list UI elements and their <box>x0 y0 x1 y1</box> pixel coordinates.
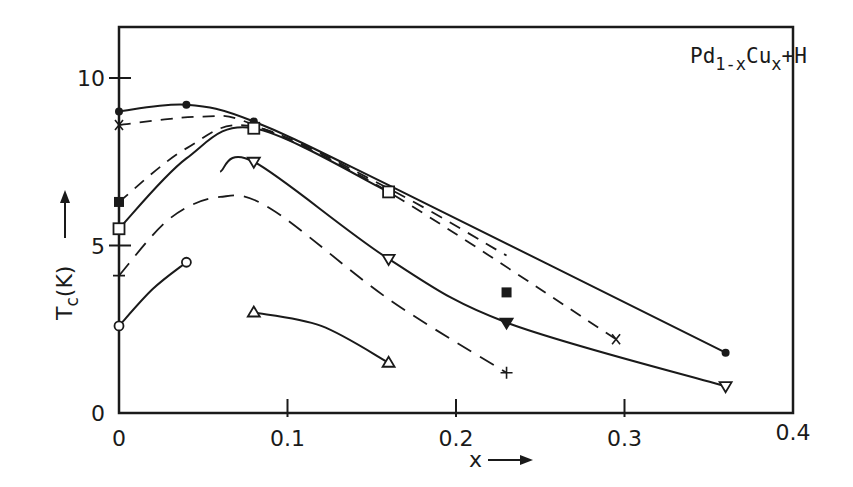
curve-plus <box>119 195 507 372</box>
open-square-marker <box>114 223 125 234</box>
plus-marker <box>501 367 513 379</box>
curve-filled-square <box>119 125 507 256</box>
data-markers <box>113 101 732 392</box>
filled-circle-marker <box>722 349 730 357</box>
open-square-marker <box>248 123 259 134</box>
filled-square-marker <box>114 197 124 207</box>
x-axis-title: x <box>469 447 533 472</box>
open-square-marker <box>383 186 394 197</box>
y-tick-label: 0 <box>91 401 105 426</box>
x-tick-label: 0.4 <box>776 420 811 445</box>
open-inverted-triangle-marker <box>383 255 395 265</box>
open-inverted-triangle-marker <box>720 382 732 392</box>
x-axis-label: x <box>469 447 482 472</box>
open-circle-marker <box>182 258 191 267</box>
x-tick-label: 0.1 <box>270 426 305 451</box>
open-triangle-marker <box>383 357 395 367</box>
y-axis-label: Tc(K) <box>52 266 82 321</box>
data-curves <box>119 105 726 387</box>
y-tick-label: 10 <box>77 66 105 91</box>
curve-cross-x <box>119 116 616 339</box>
x-tick-label: 0.3 <box>607 426 642 451</box>
filled-square-marker <box>502 287 512 297</box>
filled-circle-marker <box>182 101 190 109</box>
chart-figure: 00.10.20.30.40510 Pd1-xCux+H x Tc(K) <box>0 0 853 487</box>
open-inverted-triangle-marker <box>248 158 260 168</box>
x-arrowhead-icon <box>520 455 533 465</box>
x-marker <box>612 334 620 344</box>
filled-circle-marker <box>115 108 123 116</box>
plot-border <box>119 27 793 413</box>
x-tick-label: 0 <box>112 426 126 451</box>
y-tick-label: 5 <box>91 234 105 259</box>
curve-inverted-triangle <box>220 157 725 386</box>
plot-frame <box>119 27 793 413</box>
y-arrowhead-icon <box>60 190 70 203</box>
curve-open-triangle <box>254 313 389 363</box>
compound-annotation: Pd1-xCux+H <box>690 44 807 74</box>
curve-open-circle <box>119 262 186 326</box>
y-axis-title: Tc(K) <box>52 190 82 321</box>
curve-open-square <box>119 127 389 228</box>
curve-filled-circle <box>119 105 726 353</box>
open-triangle-marker <box>248 307 260 317</box>
open-circle-marker <box>115 321 124 330</box>
